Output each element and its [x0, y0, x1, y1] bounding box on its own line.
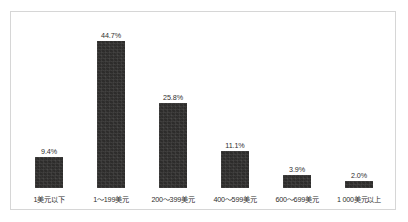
bar-value-label: 2.0% [351, 172, 367, 179]
category-label: 1 000美元以上 [316, 196, 402, 203]
bar-group: 2.0% [329, 30, 389, 188]
bar [283, 175, 311, 188]
bar-group: 44.7% [81, 30, 141, 188]
bar-value-label: 11.1% [225, 142, 244, 149]
plot-area: 9.4% 1美元以下 44.7% 1～199美元 25.8% 200～399美元… [11, 12, 395, 209]
bar-group: 25.8% [143, 30, 203, 188]
bar-group: 9.4% [19, 30, 79, 188]
bar-value-label: 25.8% [163, 94, 183, 101]
bar-value-label: 9.4% [41, 148, 57, 155]
bar [35, 157, 63, 188]
bar-value-label: 3.9% [289, 166, 305, 173]
bar-group: 11.1% [205, 30, 265, 188]
bar-value-label: 44.7% [101, 32, 121, 39]
chart-frame: 9.4% 1美元以下 44.7% 1～199美元 25.8% 200～399美元… [10, 11, 396, 210]
bar [97, 41, 125, 188]
bar [159, 103, 187, 188]
bar-group: 3.9% [267, 30, 327, 188]
bar [345, 181, 373, 188]
bar [221, 151, 249, 188]
